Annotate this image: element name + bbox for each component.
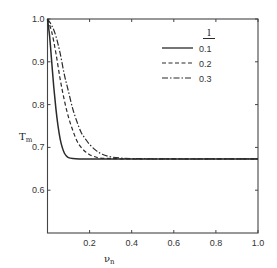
y-tick-label: 0.8 (32, 100, 45, 110)
y-tick-label: 0.7 (32, 142, 45, 152)
y-tick-label: 1.0 (32, 14, 45, 24)
x-tick-label: 0.6 (168, 238, 181, 248)
x-tick-label: 0.4 (125, 238, 138, 248)
y-tick-label: 0.9 (32, 57, 45, 67)
legend-title: l (207, 27, 210, 38)
legend-label: 0.1 (199, 44, 212, 54)
legend-label: 0.2 (199, 59, 212, 69)
x-tick-label: 1.0 (252, 238, 265, 248)
x-tick-label: 0.2 (83, 238, 96, 248)
x-tick-label: 0.8 (210, 238, 223, 248)
chart: 0.20.40.60.81.0 0.60.70.80.91.0 l0.10.20… (0, 0, 277, 268)
legend-label: 0.3 (199, 74, 212, 84)
y-tick-label: 0.6 (32, 185, 45, 195)
